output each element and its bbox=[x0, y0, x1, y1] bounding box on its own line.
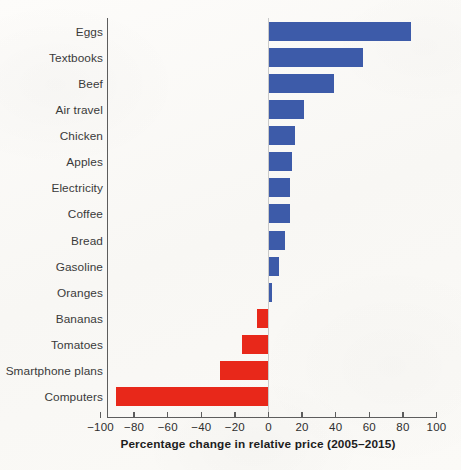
x-tick bbox=[268, 412, 269, 418]
bar-air-travel bbox=[269, 100, 304, 119]
x-tick bbox=[436, 412, 437, 418]
category-label-textbooks: Textbooks bbox=[49, 51, 103, 65]
category-label-electricity: Electricity bbox=[51, 181, 103, 195]
bar-tomatoes bbox=[242, 335, 269, 354]
x-tick bbox=[100, 412, 101, 418]
bar-chart: −100−80−60−40−20020406080100 EggsTextboo… bbox=[0, 0, 461, 470]
x-axis-title: Percentage change in relative price (200… bbox=[0, 437, 461, 451]
bar-coffee bbox=[269, 204, 291, 223]
category-label-bananas: Bananas bbox=[56, 312, 103, 326]
category-label-smartphone-plans: Smartphone plans bbox=[6, 364, 103, 378]
bar-computers bbox=[116, 387, 269, 406]
category-label-beef: Beef bbox=[78, 77, 103, 91]
x-tick bbox=[167, 412, 168, 418]
x-tick bbox=[201, 412, 202, 418]
x-tick bbox=[234, 412, 235, 418]
category-label-gasoline: Gasoline bbox=[56, 260, 103, 274]
category-label-chicken: Chicken bbox=[60, 129, 103, 143]
category-label-eggs: Eggs bbox=[76, 25, 103, 39]
bar-bananas bbox=[257, 309, 269, 328]
category-label-tomatoes: Tomatoes bbox=[51, 338, 103, 352]
category-label-air-travel: Air travel bbox=[55, 103, 103, 117]
bar-gasoline bbox=[269, 257, 279, 276]
x-tick bbox=[301, 412, 302, 418]
x-axis-line bbox=[107, 417, 437, 418]
category-label-apples: Apples bbox=[66, 155, 103, 169]
bar-electricity bbox=[269, 178, 291, 197]
bar-textbooks bbox=[269, 48, 363, 67]
category-label-computers: Computers bbox=[44, 390, 103, 404]
bar-bread bbox=[269, 231, 286, 250]
bar-beef bbox=[269, 74, 335, 93]
category-label-coffee: Coffee bbox=[68, 207, 103, 221]
bar-eggs bbox=[269, 22, 412, 41]
bar-oranges bbox=[269, 283, 272, 302]
bar-chicken bbox=[269, 126, 296, 145]
bar-smartphone-plans bbox=[220, 361, 269, 380]
x-tick bbox=[133, 412, 134, 418]
x-tick bbox=[369, 412, 370, 418]
bar-apples bbox=[269, 152, 293, 171]
x-tick bbox=[402, 412, 403, 418]
category-label-oranges: Oranges bbox=[57, 286, 103, 300]
x-tick-label: 100 bbox=[417, 421, 457, 433]
category-label-bread: Bread bbox=[71, 234, 103, 248]
x-tick bbox=[335, 412, 336, 418]
y-axis-line bbox=[107, 18, 108, 418]
